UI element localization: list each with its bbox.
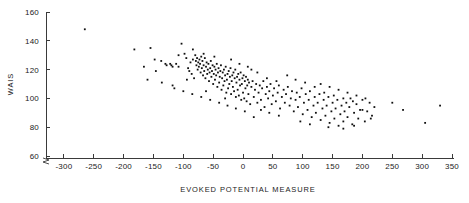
data-point: [341, 105, 343, 107]
data-point: [352, 100, 354, 102]
data-point: [227, 105, 229, 107]
data-point: [210, 60, 212, 62]
data-point: [240, 72, 242, 74]
data-point: [236, 82, 238, 84]
data-point: [228, 70, 230, 72]
x-tick-label: 100: [296, 162, 310, 171]
data-point: [277, 92, 279, 94]
data-point: [290, 98, 292, 100]
data-point: [84, 28, 86, 30]
data-point: [209, 72, 211, 74]
data-point: [338, 89, 340, 91]
data-point: [235, 96, 237, 98]
data-point: [283, 89, 285, 91]
data-point: [173, 87, 175, 89]
data-point: [201, 67, 203, 69]
data-point: [224, 98, 226, 100]
data-point: [362, 99, 364, 101]
data-point: [314, 96, 316, 98]
data-point: [254, 89, 256, 91]
x-tick-label: -50: [207, 162, 220, 171]
data-point: [200, 72, 202, 74]
data-point: [245, 87, 247, 89]
data-point: [133, 49, 135, 51]
data-point: [320, 119, 322, 121]
data-point: [357, 118, 359, 120]
data-point: [259, 85, 261, 87]
data-point: [196, 57, 198, 59]
data-point: [335, 108, 337, 110]
data-point: [249, 103, 251, 105]
data-point: [271, 103, 273, 105]
data-point: [267, 98, 269, 100]
data-point: [323, 99, 325, 101]
y-tick-label: 160: [25, 8, 39, 17]
data-point: [356, 95, 358, 97]
data-point: [200, 96, 202, 98]
data-point: [239, 85, 241, 87]
data-point: [242, 92, 244, 94]
data-point: [286, 74, 288, 76]
y-tick-label: 100: [25, 94, 39, 103]
data-point: [220, 64, 222, 66]
data-point: [366, 110, 368, 112]
data-point: [205, 90, 207, 92]
data-point: [206, 73, 208, 75]
data-point: [202, 60, 204, 62]
data-point: [362, 109, 364, 111]
data-point: [308, 99, 310, 101]
data-point: [237, 73, 239, 75]
data-point: [278, 85, 280, 87]
data-point: [236, 76, 238, 78]
data-point: [209, 99, 211, 101]
data-point: [309, 90, 311, 92]
data-point: [373, 106, 375, 108]
data-point: [175, 63, 177, 65]
data-point: [260, 109, 262, 111]
data-point: [154, 59, 156, 61]
data-point: [245, 76, 247, 78]
data-point: [228, 83, 230, 85]
data-point: [192, 49, 194, 51]
y-tick-label: 120: [25, 66, 39, 75]
data-point: [338, 125, 340, 127]
data-point: [356, 103, 358, 105]
data-point: [253, 116, 255, 118]
data-point: [155, 70, 157, 72]
x-tick-label: -250: [85, 162, 102, 171]
data-point: [320, 83, 322, 85]
data-point: [250, 86, 252, 88]
data-point: [281, 96, 283, 98]
data-point: [216, 86, 218, 88]
data-point: [256, 102, 258, 104]
data-point: [210, 76, 212, 78]
data-point: [370, 118, 372, 120]
data-point: [304, 82, 306, 84]
data-point: [203, 64, 205, 66]
data-point: [226, 79, 228, 81]
scatter-plot-figure: 6080100120140160-300-250-200-150-100-500…: [0, 0, 469, 203]
data-point: [348, 106, 350, 108]
data-point: [391, 102, 393, 104]
data-point: [329, 122, 331, 124]
data-point: [296, 92, 298, 94]
data-point: [203, 70, 205, 72]
data-point: [268, 112, 270, 114]
data-point: [364, 121, 366, 123]
y-tick-label: 80: [30, 123, 40, 132]
data-point: [252, 80, 254, 82]
data-point: [229, 76, 231, 78]
data-point: [246, 100, 248, 102]
x-tick-label: 0: [241, 162, 246, 171]
data-point: [319, 93, 321, 95]
x-tick-label: 200: [355, 162, 369, 171]
data-point: [332, 102, 334, 104]
data-point: [246, 85, 248, 87]
data-point: [213, 66, 215, 68]
data-point: [255, 83, 257, 85]
data-point: [295, 79, 297, 81]
data-point: [325, 115, 327, 117]
x-tick-label: 300: [415, 162, 429, 171]
data-point: [253, 96, 255, 98]
data-point: [247, 66, 249, 68]
